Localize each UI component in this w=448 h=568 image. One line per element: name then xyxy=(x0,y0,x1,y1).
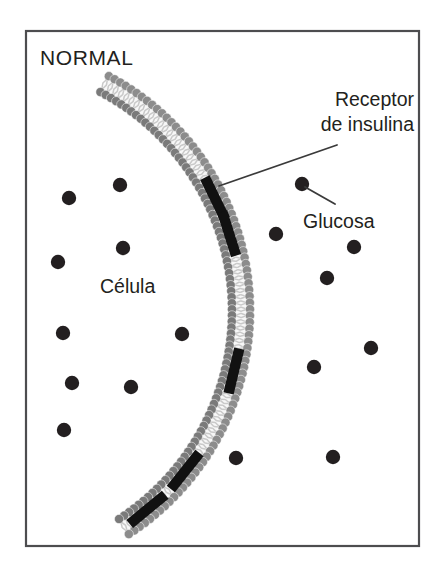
lipid-tail xyxy=(194,169,198,170)
lipid-head xyxy=(124,529,133,538)
lipid-tail xyxy=(208,428,212,429)
lipid-tail xyxy=(199,444,203,445)
glucose-dot-outside xyxy=(364,341,378,355)
glucose-dot-outside xyxy=(347,240,361,254)
lipid-tail xyxy=(239,342,243,343)
glucose-dot-outside xyxy=(229,451,243,465)
lipid-tail xyxy=(211,422,215,423)
lipid-tail xyxy=(236,332,240,333)
glucose-dot-inside xyxy=(56,326,70,340)
lipid-tail xyxy=(214,426,218,427)
lipid-tail xyxy=(232,261,236,262)
lipid-tail xyxy=(196,449,200,450)
diagram-svg: NORMALReceptorde insulinaGlucosaCélula xyxy=(0,0,448,568)
lipid-head xyxy=(114,514,123,523)
glucose-dot-inside xyxy=(57,423,71,437)
lipid-tail xyxy=(202,448,206,449)
figure-canvas: NORMALReceptorde insulinaGlucosaCélula xyxy=(0,0,448,568)
lipid-tail xyxy=(234,345,238,346)
lipid-tail xyxy=(239,348,243,349)
lipid-tail xyxy=(236,257,240,258)
glucose-dot-inside xyxy=(116,241,130,255)
receptor-label-line-1: Receptor xyxy=(335,88,415,110)
lipid-tail xyxy=(235,285,239,286)
lipid-tail xyxy=(211,432,215,433)
lipid-tail xyxy=(123,96,124,100)
glucose-dot-inside xyxy=(62,191,76,205)
normal-title: NORMAL xyxy=(40,46,133,69)
lipid-tail xyxy=(240,282,244,283)
lipid-tail xyxy=(238,270,242,271)
lipid-tail xyxy=(113,90,114,94)
lipid-tail xyxy=(117,87,118,91)
celula-label-line-1: Célula xyxy=(100,275,155,297)
lipid-tail xyxy=(126,526,127,530)
glucosa-label: Glucosa xyxy=(303,210,375,232)
normal-title-line-1: NORMAL xyxy=(40,46,133,69)
lipid-tail xyxy=(236,291,240,292)
lipid-tail xyxy=(123,90,124,94)
lipid-tail xyxy=(235,339,239,340)
lipid-tail xyxy=(240,335,244,336)
lipid-tail xyxy=(233,267,237,268)
glucose-dot-inside xyxy=(65,376,79,390)
lipid-tail xyxy=(107,80,108,84)
lipid-tail xyxy=(234,273,238,274)
lipid-tail xyxy=(205,443,209,444)
lipid-tail xyxy=(239,276,243,277)
lipid-tail xyxy=(128,94,129,98)
celula-label: Célula xyxy=(100,275,155,297)
lipid-tail xyxy=(102,84,103,88)
glucose-dot-outside xyxy=(269,227,283,241)
lipid-tail xyxy=(203,175,207,176)
lipid-tail xyxy=(121,523,122,527)
glucose-dot-inside xyxy=(113,178,127,192)
receptor-label-line-2: de insulina xyxy=(321,113,414,135)
lipid-tail xyxy=(208,437,212,438)
lipid-tail xyxy=(196,164,200,165)
glucose-dot-outside xyxy=(326,450,340,464)
lipid-tail xyxy=(202,438,206,439)
lipid-tail xyxy=(112,84,113,88)
lipid-tail xyxy=(205,433,209,434)
lipid-tail xyxy=(240,288,244,289)
glucose-dot-outside xyxy=(320,271,334,285)
glucose-dot-inside xyxy=(124,380,138,394)
glucose-dot-inside xyxy=(51,255,65,269)
lipid-tail xyxy=(118,93,119,97)
lipid-tail xyxy=(235,279,239,280)
glucose-dot-outside xyxy=(307,360,321,374)
lipid-tail xyxy=(197,174,201,175)
glucosa-label-line-1: Glucosa xyxy=(303,210,375,232)
lipid-tail xyxy=(200,170,204,171)
lipid-tail xyxy=(237,264,241,265)
glucose-dot-inside xyxy=(175,327,189,341)
lipid-tail xyxy=(108,86,109,90)
